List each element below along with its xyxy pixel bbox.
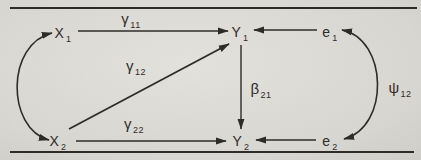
covariance-arc-x1-x2 xyxy=(17,33,52,140)
node-e2-symbol: e xyxy=(322,133,330,149)
node-x2-subscript: 2 xyxy=(61,142,67,152)
coef-beta21-subscript: 21 xyxy=(261,90,272,100)
node-y2-symbol: Y xyxy=(233,133,243,149)
node-x1-symbol: X xyxy=(55,25,65,41)
node-y1: Y1 xyxy=(232,24,249,40)
node-x2-symbol: X xyxy=(50,133,60,149)
coef-psi12-subscript: 12 xyxy=(401,89,412,99)
coef-gamma22-symbol: γ xyxy=(124,115,132,132)
coef-gamma12-subscript: 12 xyxy=(135,67,146,77)
node-y1-symbol: Y xyxy=(232,24,242,40)
node-e1: e1 xyxy=(322,24,337,40)
node-y1-subscript: 1 xyxy=(243,33,249,43)
coef-psi12: ψ12 xyxy=(388,80,411,96)
arrow-x2-to-y1 xyxy=(69,44,229,129)
coef-gamma22-subscript: 22 xyxy=(133,125,144,135)
coef-gamma11-symbol: γ xyxy=(121,10,129,27)
node-x1-subscript: 1 xyxy=(66,34,72,44)
coef-beta21-symbol: β xyxy=(250,80,259,97)
covariance-arc-e1-e2 xyxy=(342,30,378,139)
node-e1-subscript: 1 xyxy=(332,33,338,43)
node-y2: Y2 xyxy=(233,133,250,149)
path-diagram: X1 X2 Y1 Y2 e1 e2 γ11 γ12 γ22 β21 ψ12 xyxy=(0,0,421,160)
node-e2-subscript: 2 xyxy=(332,142,338,152)
coef-gamma12: γ12 xyxy=(126,58,146,74)
coef-psi12-symbol: ψ xyxy=(388,79,399,96)
node-x2: X2 xyxy=(50,133,67,149)
coef-gamma12-symbol: γ xyxy=(126,57,134,74)
coef-beta21: β21 xyxy=(250,81,271,97)
coef-gamma11-subscript: 11 xyxy=(130,20,140,30)
node-y2-subscript: 2 xyxy=(244,142,250,152)
node-x1: X1 xyxy=(55,25,72,41)
coef-gamma11: γ11 xyxy=(121,11,140,27)
node-e2: e2 xyxy=(322,133,337,149)
node-e1-symbol: e xyxy=(322,24,330,40)
coef-gamma22: γ22 xyxy=(124,116,144,132)
